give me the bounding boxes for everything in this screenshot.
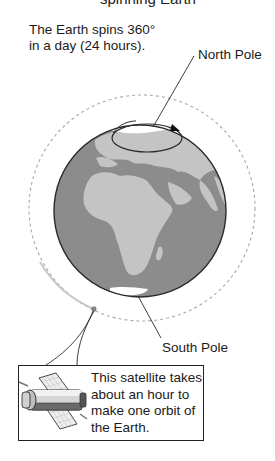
north-pole-leader-line <box>153 56 194 127</box>
globe-earth-icon <box>54 124 226 297</box>
caption-text: This satellite takes about an hour to ma… <box>91 370 206 436</box>
caption-line-1: This satellite takes <box>91 370 206 387</box>
caption-line-3: make one orbit of <box>91 403 206 420</box>
callout-lines <box>46 311 94 365</box>
satellite-position-marker <box>92 307 96 311</box>
satellite-icon <box>16 368 88 436</box>
south-pole-leader-line <box>138 296 161 338</box>
caption-line-2: about an hour to <box>91 387 206 404</box>
south-pole-label: South Pole <box>162 340 228 355</box>
caption-line-4: the Earth. <box>91 420 206 437</box>
north-pole-label: North Pole <box>198 47 262 62</box>
